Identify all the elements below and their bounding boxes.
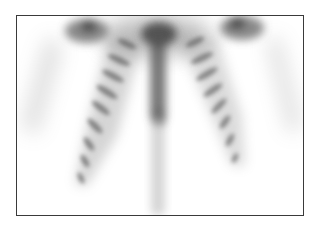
scan-image-frame (16, 15, 304, 216)
left-arm (22, 36, 62, 136)
sternum (141, 22, 177, 126)
right-arm (267, 36, 302, 134)
spine (151, 116, 165, 215)
right-rib-cage-haze (177, 36, 245, 166)
bone-scan-image (17, 16, 303, 215)
left-rib-cage-haze (75, 36, 142, 186)
left-shoulder (65, 19, 109, 43)
right-shoulder (220, 16, 264, 40)
